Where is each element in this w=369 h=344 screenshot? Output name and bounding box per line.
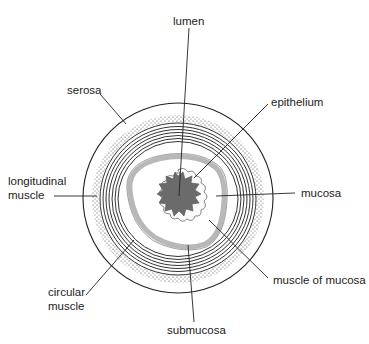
label-lumen: lumen bbox=[173, 15, 204, 27]
label-serosa: serosa bbox=[67, 84, 102, 96]
label-epithelium: epithelium bbox=[271, 96, 323, 108]
label-longitudinal-muscle: muscle bbox=[8, 189, 44, 201]
label-mucosa: mucosa bbox=[301, 187, 342, 199]
label-submucosa: submucosa bbox=[167, 324, 226, 336]
label-muscle-of-mucosa: muscle of mucosa bbox=[273, 274, 366, 286]
label-circular-muscle: muscle bbox=[48, 300, 84, 312]
gut-cross-section-diagram: lumen serosa epithelium longitudinal mus… bbox=[0, 0, 369, 344]
label-longitudinal: longitudinal bbox=[8, 175, 66, 187]
label-circular: circular bbox=[48, 286, 85, 298]
